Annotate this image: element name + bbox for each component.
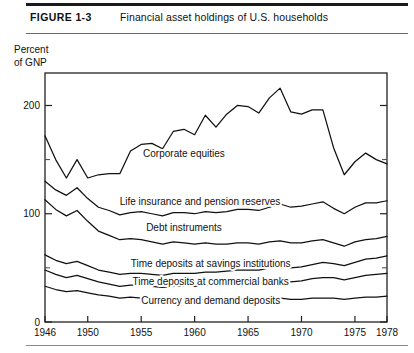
x-tick-label: 1946 [34, 327, 57, 338]
x-tick-label: 1950 [77, 327, 100, 338]
x-tick-label: 1970 [290, 327, 313, 338]
series-label: Corporate equities [143, 148, 225, 159]
series-label: Life insurance and pension reserves [120, 196, 281, 207]
series-label: Time deposits at commercial banks [132, 276, 288, 287]
x-tick-label: 1955 [130, 327, 153, 338]
series-label: Time deposits at savings institutions [131, 258, 291, 269]
series-label: Currency and demand deposits [141, 295, 280, 306]
x-tick-label: 1978 [376, 327, 399, 338]
x-tick-label: 1975 [344, 327, 367, 338]
x-tick-label: 1960 [184, 327, 207, 338]
x-tick-label: 1965 [237, 327, 260, 338]
y-tick-label: 200 [23, 100, 40, 111]
series-label: Debt instruments [146, 222, 222, 233]
chart-plot-area: 010020019461950195519601965197019751978C… [0, 0, 414, 353]
y-tick-label: 0 [34, 317, 40, 328]
series-line [45, 88, 387, 178]
y-tick-label: 100 [23, 208, 40, 219]
